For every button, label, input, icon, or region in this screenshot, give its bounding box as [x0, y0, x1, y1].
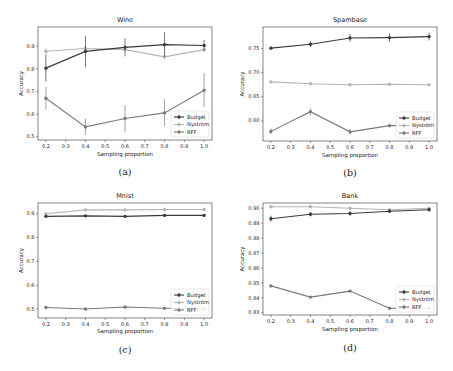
x-tick-label: 0.8 [161, 321, 169, 327]
y-tick-label: 0.7 [27, 88, 35, 94]
data-point-marker [163, 214, 166, 217]
y-tick-label: 0.60 [248, 117, 259, 123]
x-tick-label: 0.7 [141, 143, 149, 149]
legend: BudgetNyströmRFF [396, 286, 434, 312]
legend-label: RFF [412, 304, 422, 310]
x-axis-label: Sampling proportion [322, 152, 379, 159]
data-point-marker [163, 111, 166, 114]
x-tick-label: 0.9 [405, 318, 413, 324]
chart-title: Spambase [333, 16, 367, 24]
y-tick-label: 0.84 [248, 295, 259, 301]
y-tick-label: 0.8 [27, 66, 35, 72]
figure: Wine0.20.30.40.50.60.70.80.91.00.50.60.7… [0, 0, 453, 371]
x-tick-label: 0.3 [62, 143, 70, 149]
data-point-marker [123, 305, 126, 308]
data-point-marker [44, 215, 47, 218]
legend-marker [402, 131, 405, 134]
x-tick-label: 0.5 [101, 143, 109, 149]
x-tick-label: 0.3 [287, 318, 295, 324]
legend-label: Nyström [412, 122, 434, 129]
data-point-marker [44, 96, 47, 99]
data-point-marker [309, 82, 312, 85]
data-point-marker [309, 110, 312, 113]
data-point-marker [348, 289, 351, 292]
x-axis-label: Sampling proportion [97, 328, 154, 335]
data-point-marker [84, 307, 87, 310]
y-tick-label: 0.7 [27, 258, 35, 264]
x-tick-label: 0.2 [42, 321, 50, 327]
legend-label: Budget [187, 114, 206, 121]
x-tick-label: 1.0 [425, 318, 433, 324]
x-tick-label: 0.4 [81, 143, 89, 149]
x-tick-label: 0.3 [287, 144, 295, 150]
data-point-marker [388, 36, 391, 39]
legend-marker [177, 301, 180, 304]
y-axis-label: Accuracy [18, 247, 25, 273]
x-axis-label: Sampling proportion [322, 326, 379, 333]
x-tick-label: 0.8 [386, 318, 394, 324]
chart-title: Bank [342, 192, 359, 200]
x-tick-label: 0.3 [62, 321, 70, 327]
y-tick-label: 0.65 [248, 93, 259, 99]
y-axis-label: Accuracy [239, 71, 246, 97]
data-point-marker [427, 208, 430, 211]
x-axis-label: Sampling proportion [97, 151, 154, 158]
y-tick-label: 0.86 [248, 265, 259, 271]
legend: BudgetNyströmRFF [171, 111, 209, 137]
data-point-marker [269, 46, 272, 49]
data-point-marker [163, 307, 166, 310]
data-point-marker [348, 36, 351, 39]
y-tick-label: 0.9 [27, 210, 35, 216]
chart-panel-mnist: Mnist0.20.30.40.50.60.70.80.91.00.50.60.… [18, 192, 212, 355]
data-point-marker [84, 50, 87, 53]
legend-label: Nyström [187, 299, 209, 306]
x-tick-label: 0.8 [386, 144, 394, 150]
y-tick-label: 0.88 [248, 235, 259, 241]
data-point-marker [269, 130, 272, 133]
legend-marker [402, 305, 405, 308]
legend-marker [177, 115, 180, 118]
data-point-marker [123, 46, 126, 49]
y-tick-label: 0.6 [27, 111, 35, 117]
data-point-marker [269, 205, 272, 208]
x-tick-label: 0.6 [121, 321, 129, 327]
legend-label: RFF [412, 130, 422, 136]
series-nystrom [269, 80, 431, 86]
y-tick-label: 0.9 [27, 43, 35, 49]
y-axis-label: Accuracy [239, 246, 246, 272]
x-tick-label: 0.7 [366, 318, 374, 324]
chart-title: Wine [117, 16, 133, 24]
legend-label: RFF [187, 129, 197, 135]
legend-marker [177, 308, 180, 311]
data-point-marker [202, 89, 205, 92]
y-tick-label: 0.8 [27, 234, 35, 240]
subfigure-caption: (c) [119, 344, 132, 355]
data-point-marker [427, 35, 430, 38]
y-tick-label: 0.75 [248, 45, 259, 51]
data-point-marker [44, 49, 47, 52]
chart-panel-wine: Wine0.20.30.40.50.60.70.80.91.00.50.60.7… [18, 16, 212, 177]
data-point-marker [388, 124, 391, 127]
subfigure-caption: (b) [343, 167, 357, 178]
series-budget [269, 208, 431, 222]
y-tick-label: 0.90 [248, 205, 259, 211]
subfigure-caption: (a) [118, 166, 131, 177]
chart-panel-spambase: Spambase0.20.30.40.50.60.70.80.91.00.600… [239, 16, 437, 178]
data-point-marker [269, 217, 272, 220]
data-point-marker [309, 213, 312, 216]
data-point-marker [163, 43, 166, 46]
series-budget [44, 32, 206, 81]
data-point-marker [388, 307, 391, 310]
data-point-marker [269, 80, 272, 83]
y-tick-label: 0.89 [248, 220, 259, 226]
y-tick-label: 0.85 [248, 280, 259, 286]
x-tick-label: 0.9 [180, 143, 188, 149]
data-point-marker [427, 83, 430, 86]
legend-marker [177, 130, 180, 133]
x-tick-label: 0.5 [326, 318, 334, 324]
data-point-marker [388, 83, 391, 86]
legend: BudgetNyströmRFF [171, 289, 209, 315]
legend-marker [402, 116, 405, 119]
legend-marker [402, 290, 405, 293]
x-tick-label: 0.6 [346, 318, 354, 324]
